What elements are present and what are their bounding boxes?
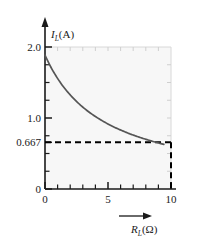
plot-area-background	[45, 47, 171, 189]
current-vs-load-resistance-chart: 2.0 1.0 0.667 0 0 5 10 IL(A) RL(Ω)	[0, 0, 198, 244]
y-tick-label-1: 1.0	[27, 112, 41, 124]
x-tick-label-10: 10	[166, 193, 178, 205]
x-axis-title-arrow-icon	[119, 213, 152, 220]
y-axis-title: IL(A)	[50, 28, 74, 43]
x-axis-unit: (Ω)	[142, 223, 158, 236]
y-tick-label-2: 2.0	[27, 41, 41, 53]
y-axis-arrowhead	[42, 17, 49, 27]
x-tick-label-5: 5	[105, 193, 111, 205]
x-axis-title: RL(Ω)	[130, 223, 158, 238]
y-tick-label-0: 0	[36, 183, 42, 195]
y-axis-unit: (A)	[59, 28, 75, 41]
chart-figure: 2.0 1.0 0.667 0 0 5 10 IL(A) RL(Ω)	[0, 0, 198, 244]
x-tick-label-0: 0	[42, 193, 48, 205]
y-tick-label-0667: 0.667	[16, 136, 41, 148]
